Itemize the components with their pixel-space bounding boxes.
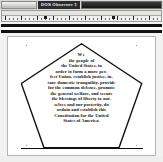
ruler-tick bbox=[53, 16, 54, 20]
window-title: DOS Observer 1 bbox=[38, 1, 80, 9]
ruler-tick bbox=[21, 16, 22, 20]
ruler-tick bbox=[13, 18, 14, 20]
ruler-tab-marker[interactable] bbox=[44, 16, 47, 19]
ruler-tick bbox=[49, 18, 50, 20]
ruler-tick bbox=[137, 18, 138, 20]
ruler-tick bbox=[157, 18, 158, 20]
status-strip bbox=[0, 156, 163, 162]
ruler-tick bbox=[89, 18, 90, 20]
ruler-tick bbox=[61, 18, 62, 20]
preamble-text-block: Wethe people ofthe United States, inorde… bbox=[21, 43, 143, 149]
ruler-tick bbox=[145, 18, 146, 20]
ruler-tick bbox=[153, 18, 154, 20]
title-bar-filler bbox=[81, 1, 162, 9]
ruler-tick bbox=[41, 18, 42, 20]
ruler-tick bbox=[81, 18, 82, 20]
ruler-tick bbox=[85, 16, 86, 20]
ruler-band bbox=[2, 11, 161, 16]
ruler-tick bbox=[25, 18, 26, 20]
ruler-tick bbox=[69, 16, 70, 20]
ruler-tick bbox=[125, 18, 126, 20]
ruler-tick bbox=[73, 18, 74, 20]
ruler-tick bbox=[33, 18, 34, 20]
ruler-tick bbox=[93, 18, 94, 20]
ruler-tick bbox=[17, 18, 18, 20]
document-page[interactable]: Wethe people ofthe United States, inorde… bbox=[7, 36, 156, 156]
toolbar-bar-lower[interactable] bbox=[1, 30, 162, 33]
ruler-tick bbox=[105, 18, 106, 20]
ruler-tick bbox=[141, 18, 142, 20]
ruler-tick bbox=[121, 18, 122, 20]
ruler-tick bbox=[57, 18, 58, 20]
ruler-tick bbox=[5, 16, 6, 20]
pentagon-text-frame[interactable]: Wethe people ofthe United States, inorde… bbox=[21, 43, 143, 149]
window-menu-button[interactable] bbox=[1, 1, 37, 9]
ruler-tick bbox=[97, 18, 98, 20]
word-processor-window: DOS Observer 1 Wethe people ofthe United… bbox=[0, 0, 163, 162]
pentagon-bottom-edge bbox=[21, 148, 143, 149]
ruler-tab-marker[interactable] bbox=[112, 16, 115, 19]
title-bar: DOS Observer 1 bbox=[0, 0, 163, 10]
ruler-tick bbox=[29, 18, 30, 20]
ruler-tick bbox=[9, 18, 10, 20]
ruler-tick bbox=[149, 16, 150, 20]
preamble-line: States of America. bbox=[63, 118, 100, 124]
ruler-tick bbox=[117, 16, 118, 20]
ruler-tick bbox=[37, 16, 38, 20]
ruler-tick bbox=[65, 18, 66, 20]
ruler-tick bbox=[133, 16, 134, 20]
ruler-tick bbox=[109, 18, 110, 20]
ruler-tick bbox=[77, 18, 78, 20]
ruler-tick bbox=[101, 16, 102, 20]
ruler-tick bbox=[129, 18, 130, 20]
horizontal-ruler[interactable] bbox=[1, 10, 162, 22]
